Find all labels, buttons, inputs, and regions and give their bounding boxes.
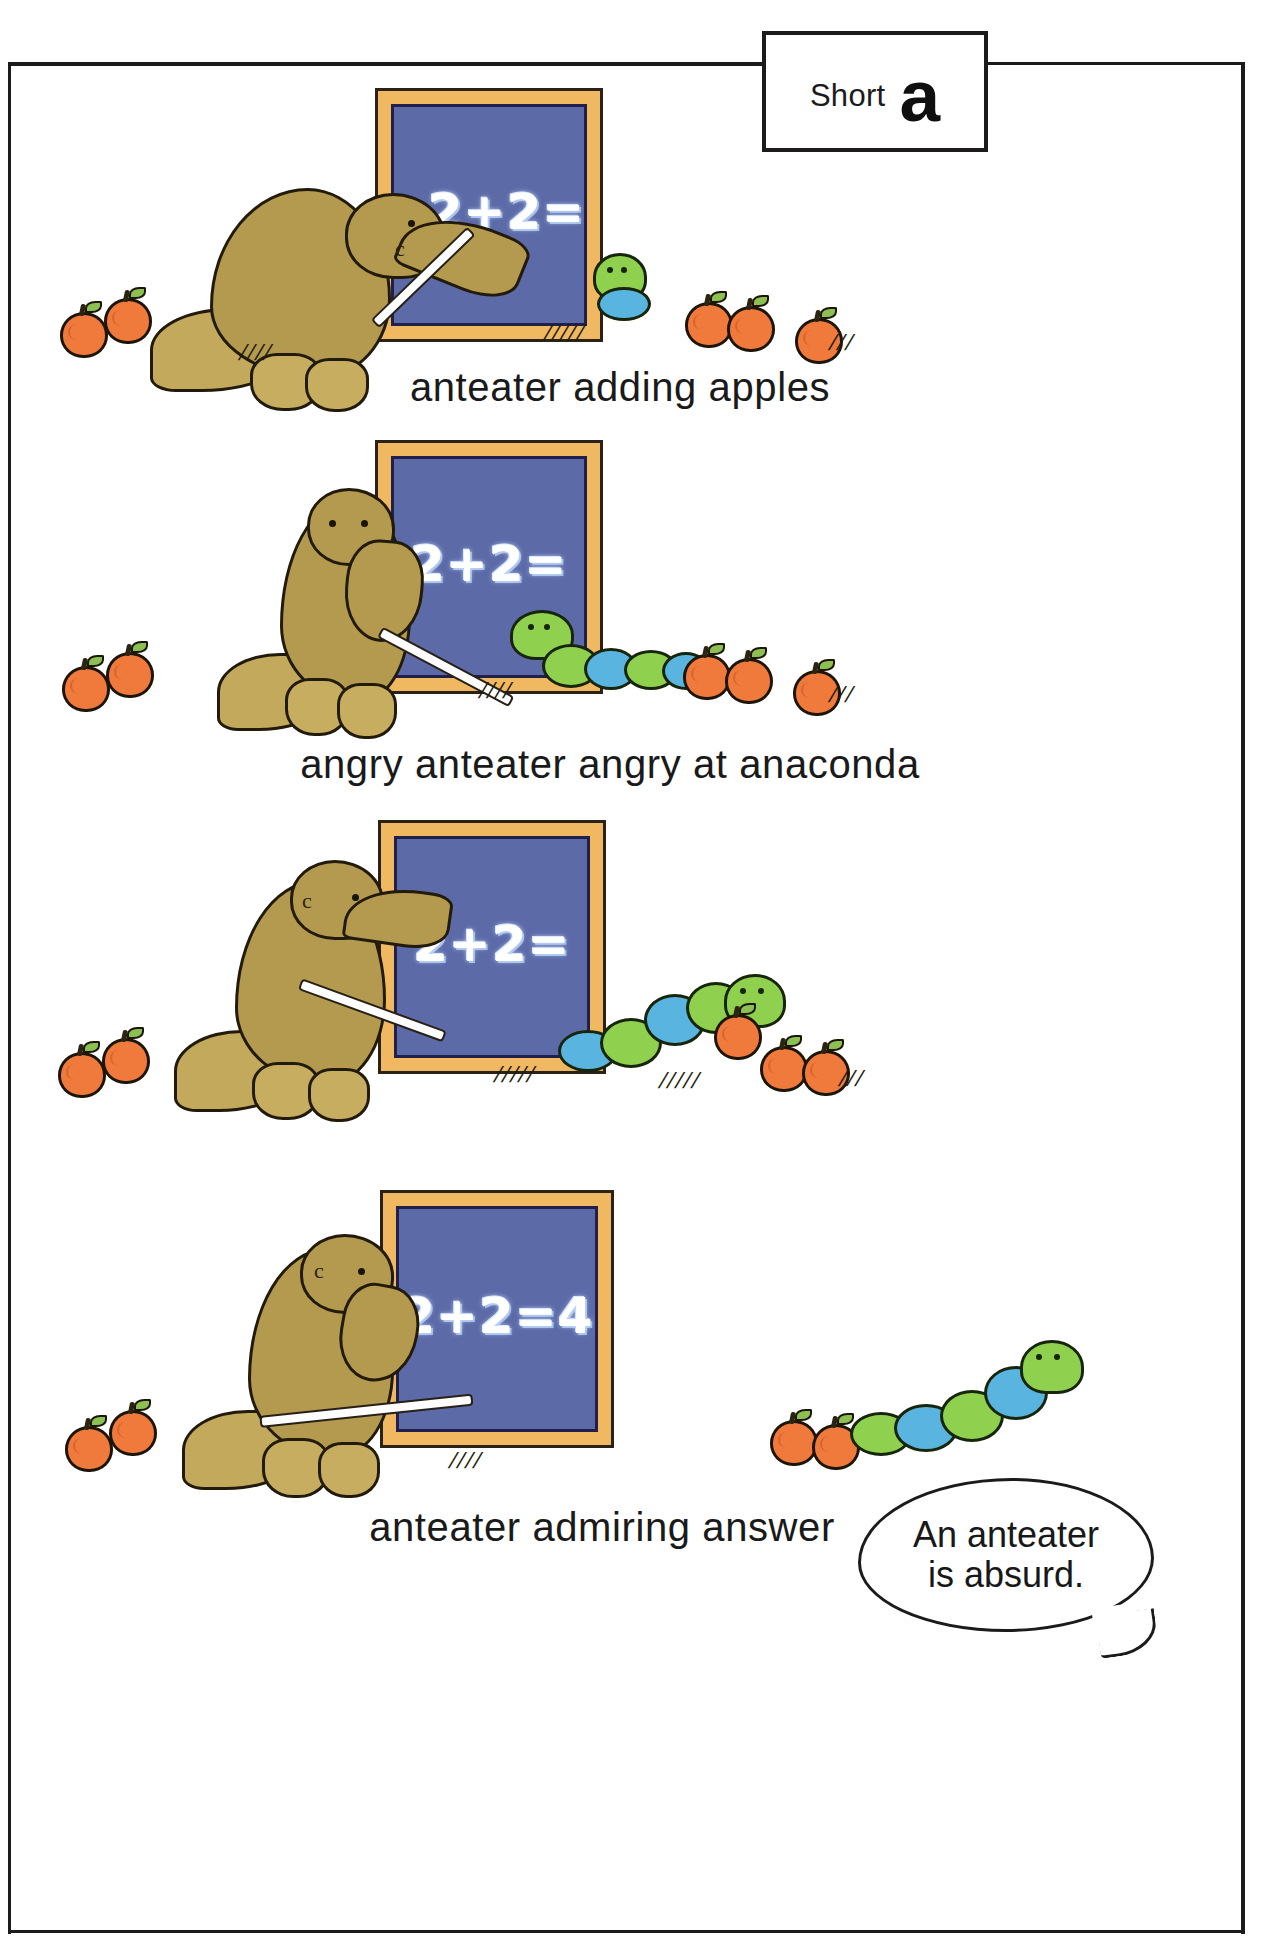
apple	[104, 298, 152, 344]
ground-ticks: ////	[446, 1448, 487, 1474]
anaconda-eye	[1036, 1354, 1042, 1360]
apple	[109, 1410, 157, 1456]
anteater-leg	[308, 1068, 370, 1122]
panel-2-caption: angry anteater angry at anaconda	[0, 742, 1230, 787]
anaconda-eye	[528, 624, 534, 630]
anaconda-eye	[758, 988, 764, 994]
anteater-character: c	[155, 158, 475, 398]
page-border-top-left	[8, 62, 768, 66]
apple	[106, 652, 154, 698]
anteater-leg	[337, 683, 397, 739]
apple	[62, 666, 110, 712]
speech-bubble-tail	[1095, 1608, 1159, 1659]
illustration-panel-1: 2+2= c ///// //// ///	[0, 68, 1240, 413]
illustration-panel-3: 2+2= c ///// ///// ///	[0, 800, 1240, 1145]
apple	[102, 1038, 150, 1084]
anaconda-character	[500, 600, 700, 690]
anteater-character: c	[180, 850, 460, 1130]
anaconda-eye	[1054, 1354, 1060, 1360]
anteater-eye	[358, 1268, 365, 1275]
anteater-leg	[318, 1442, 380, 1498]
anteater-character	[225, 478, 455, 748]
anaconda-character	[840, 1338, 1090, 1458]
page-border-top-right	[982, 62, 1244, 65]
apple	[727, 306, 775, 352]
apple	[770, 1420, 818, 1466]
anaconda-character	[585, 253, 665, 333]
apple	[60, 312, 108, 358]
anteater-eye	[329, 520, 336, 527]
anteater-eye	[352, 894, 359, 901]
panel-1-caption: anteater adding apples	[0, 365, 1240, 410]
anteater-mark: c	[395, 236, 405, 262]
apple	[683, 654, 731, 700]
ground-ticks: /////	[656, 1068, 705, 1094]
apple	[725, 658, 773, 704]
anteater-eye	[361, 520, 368, 527]
anteater-eye	[408, 220, 415, 227]
page-border-bottom	[8, 1930, 1244, 1933]
anteater-mark: c	[302, 888, 312, 914]
apple	[685, 302, 733, 348]
anteater-mark: c	[314, 1258, 324, 1284]
anaconda-eye	[621, 267, 627, 273]
anaconda-eye	[740, 988, 746, 994]
ground-ticks: /////	[491, 1062, 540, 1088]
anteater-character: c	[190, 1220, 450, 1510]
illustration-panel-2: 2+2= //// ///	[0, 420, 1240, 765]
speech-line-2: is absurd.	[928, 1555, 1084, 1595]
anaconda-segment	[597, 287, 651, 321]
apple	[58, 1052, 106, 1098]
page-border-right	[1241, 62, 1245, 1934]
apple	[65, 1426, 113, 1472]
anaconda-eye	[607, 267, 613, 273]
apple-held-by-anaconda	[714, 1014, 762, 1060]
anaconda-character	[548, 968, 788, 1078]
anaconda-head	[1020, 1340, 1084, 1394]
anaconda-eye	[544, 624, 550, 630]
panel-4-caption: anteater admiring answer	[0, 1505, 1222, 1550]
apple	[760, 1046, 808, 1092]
ground-ticks: /////	[541, 320, 590, 346]
